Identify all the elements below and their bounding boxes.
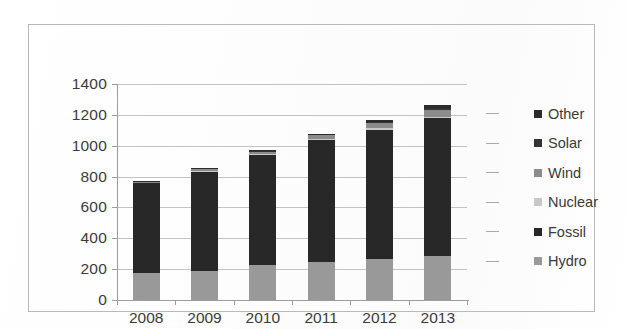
bar-segment-hydro [366,259,393,300]
x-axis-label: 2008 [129,310,163,326]
legend-item-solar[interactable]: Solar [534,129,628,159]
y-tick-mark [112,238,117,239]
y-axis-label: 1000 [72,138,107,154]
bar-segment-nuclear [424,117,451,119]
gridline [117,238,467,239]
y-tick-mark [112,177,117,178]
gridline [117,115,467,116]
legend-item-wind[interactable]: Wind [534,158,628,188]
y-axis-label: 800 [81,169,107,185]
legend-item-nuclear[interactable]: Nuclear [534,188,628,218]
plot-area: 0200400600800100012001400 20082009201020… [117,84,467,300]
legend-connector-tick [486,172,499,173]
x-tick-mark [292,300,293,305]
bar-segment-wind [424,110,451,117]
x-axis-line [117,300,469,301]
x-tick-mark [234,300,235,305]
x-tick-mark [350,300,351,305]
bar-segment-fossil [424,118,451,256]
y-axis-label: 200 [81,261,107,277]
y-tick-mark [112,146,117,147]
chart-legend: OtherSolarWindNuclearFossilHydro [534,99,628,276]
x-tick-mark [117,300,118,305]
legend-connector-tick [486,113,499,114]
bar-segment-other [424,105,451,108]
bar-segment-hydro [308,262,335,300]
bar-segment-nuclear [249,154,276,155]
legend-label: Wind [548,166,581,181]
x-tick-mark [409,300,410,305]
gridline [117,207,467,208]
legend-item-other[interactable]: Other [534,99,628,129]
legend-label: Other [548,107,584,122]
legend-swatch-icon [534,110,542,118]
bar-segment-solar [366,122,393,123]
x-axis-label: 2009 [187,310,221,326]
legend-swatch-icon [534,257,542,265]
legend-swatch-icon [534,228,542,236]
y-axis-label: 600 [81,200,107,216]
legend-label: Fossil [548,225,586,240]
y-tick-mark [112,115,117,116]
bar-segment-other [366,120,393,121]
x-axis-label: 2011 [304,310,337,326]
bar-segment-hydro [424,256,451,300]
bar-segment-wind [366,123,393,128]
bar-segment-wind [308,135,335,139]
bar-segment-other [249,150,276,151]
legend-connector-tick [486,231,499,232]
bar-segment-nuclear [308,139,335,140]
legend-connector-tick [486,261,499,262]
bar-segment-nuclear [133,182,160,183]
bar-segment-hydro [191,271,218,300]
y-tick-mark [112,207,117,208]
bar-segment-fossil [191,172,218,272]
legend-label: Hydro [548,254,587,269]
y-axis-label: 0 [98,292,107,308]
y-tick-mark [112,84,117,85]
y-axis-line [117,84,118,301]
x-tick-mark [467,300,468,305]
bar-segment-wind [133,182,160,183]
bar-segment-solar [424,108,451,110]
bar-segment-nuclear [191,171,218,172]
gridline [117,84,467,85]
y-tick-mark [112,269,117,270]
legend-label: Nuclear [548,195,598,210]
gridline [117,269,467,270]
gridline [117,146,467,147]
bar-segment-fossil [366,130,393,260]
legend-swatch-icon [534,139,542,147]
bar-segment-other [133,181,160,182]
x-axis-label: 2010 [246,310,280,326]
y-axis-label: 1200 [72,107,107,123]
x-tick-mark [175,300,176,305]
bar-segment-other [191,168,218,169]
gridline [117,177,467,178]
y-axis-label: 1400 [72,76,107,92]
x-axis-label: 2013 [421,310,455,326]
legend-swatch-icon [534,198,542,206]
x-axis-label: 2012 [362,310,396,326]
bar-segment-hydro [249,265,276,300]
y-axis-label: 400 [81,231,107,247]
bar-segment-solar [308,134,335,135]
legend-item-fossil[interactable]: Fossil [534,217,628,247]
legend-swatch-icon [534,169,542,177]
bar-segment-fossil [133,183,160,273]
bar-segment-nuclear [366,128,393,130]
legend-connector-tick [486,202,499,203]
bar-segment-wind [249,151,276,153]
bar-segment-hydro [133,273,160,300]
bar-segment-wind [191,169,218,171]
bar-segment-fossil [249,155,276,265]
legend-connector-tick [486,143,499,144]
legend-label: Solar [548,136,582,151]
chart-frame: 0200400600800100012001400 20082009201020… [28,24,595,312]
bar-segment-other [308,134,335,135]
legend-item-hydro[interactable]: Hydro [534,247,628,277]
bar-segment-fossil [308,140,335,262]
